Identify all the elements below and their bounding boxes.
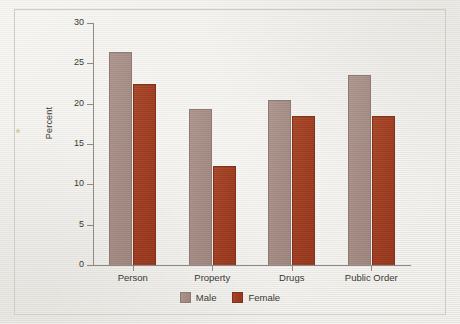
x-axis-tick <box>371 266 372 271</box>
y-axis-tick <box>87 184 93 185</box>
y-axis-tick-label: 20 <box>62 99 84 108</box>
x-axis-tick-label: Public Order <box>321 273 421 283</box>
legend-item-male: Male <box>180 292 217 303</box>
y-axis-tick-label-wrap: 20 <box>60 99 84 109</box>
bar-person-female <box>133 84 156 265</box>
x-axis-tick <box>212 266 213 271</box>
bar-public-order-male <box>348 75 371 265</box>
bar-property-male <box>189 109 212 265</box>
bar-property-female <box>213 166 236 265</box>
legend-swatch-female-icon <box>232 292 243 303</box>
legend-label: Female <box>248 293 280 303</box>
y-axis-tick-label-wrap: 5 <box>60 220 84 230</box>
y-axis-line <box>93 23 94 266</box>
y-axis-tick-label: 15 <box>62 139 84 148</box>
y-axis-tick <box>87 23 93 24</box>
legend-swatch-male-icon <box>180 292 191 303</box>
y-axis-tick-label-wrap: 25 <box>60 58 84 68</box>
x-axis-tick <box>133 266 134 271</box>
chart-legend: MaleFemale <box>0 292 460 303</box>
y-axis-tick <box>87 104 93 105</box>
bar-person-male <box>109 52 132 265</box>
y-axis-tick-label: 5 <box>62 220 84 229</box>
y-axis-tick-label: 0 <box>62 260 84 269</box>
y-axis-title: Percent <box>44 73 54 173</box>
bar-public-order-female <box>372 116 395 265</box>
y-axis-tick-label-wrap: 15 <box>60 139 84 149</box>
y-axis-tick-label: 30 <box>62 18 84 27</box>
figure-root: Percent 051015202530 PersonPropertyDrugs… <box>0 0 460 324</box>
x-axis-line <box>93 265 411 266</box>
y-axis-tick-label-wrap: 10 <box>60 179 84 189</box>
y-axis-tick <box>87 265 93 266</box>
bar-drugs-male <box>268 100 291 265</box>
legend-item-female: Female <box>232 292 280 303</box>
legend-label: Male <box>196 293 217 303</box>
y-axis-tick-label: 10 <box>62 179 84 188</box>
y-axis-tick-label-wrap: 0 <box>60 260 84 270</box>
x-axis-tick <box>292 266 293 271</box>
y-axis-tick <box>87 63 93 64</box>
bar-drugs-female <box>292 116 315 265</box>
bar-chart: Percent 051015202530 PersonPropertyDrugs… <box>0 0 460 324</box>
y-axis-tick <box>87 225 93 226</box>
y-axis-tick-label-wrap: 30 <box>60 18 84 28</box>
y-axis-tick-label: 25 <box>62 58 84 67</box>
y-axis-tick <box>87 144 93 145</box>
